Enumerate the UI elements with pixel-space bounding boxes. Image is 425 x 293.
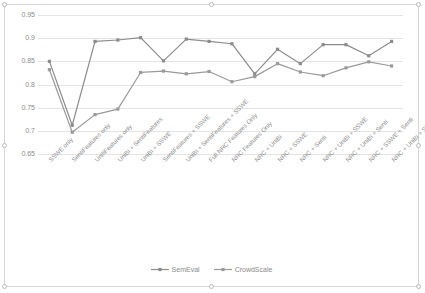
data-point[interactable] — [253, 72, 256, 75]
data-point[interactable] — [116, 38, 119, 41]
series-line-semeval — [49, 38, 391, 126]
data-point[interactable] — [390, 64, 393, 67]
data-point[interactable] — [322, 43, 325, 46]
data-point[interactable] — [276, 62, 279, 65]
data-point[interactable] — [71, 131, 74, 134]
legend-label: SemEval — [172, 266, 200, 273]
legend-item-semeval[interactable]: SemEval — [151, 266, 200, 273]
data-point[interactable] — [322, 74, 325, 77]
data-point[interactable] — [207, 40, 210, 43]
data-point[interactable] — [230, 80, 233, 83]
resize-handle-top-right[interactable] — [416, 2, 421, 7]
data-point[interactable] — [185, 72, 188, 75]
data-point[interactable] — [116, 107, 119, 110]
data-point[interactable] — [299, 62, 302, 65]
y-axis-tick-labels: 0.650.70.750.80.850.90.95 — [5, 5, 35, 165]
legend-marker-icon — [151, 266, 169, 273]
data-point[interactable] — [253, 75, 256, 78]
y-axis-tick-label: 0.65 — [21, 150, 35, 158]
legend-item-crowdscale[interactable]: CrowdScale — [214, 266, 273, 273]
data-point[interactable] — [93, 40, 96, 43]
resize-handle-top-center[interactable] — [209, 2, 214, 7]
legend-label: CrowdScale — [235, 266, 273, 273]
data-point[interactable] — [207, 70, 210, 73]
data-point[interactable] — [390, 40, 393, 43]
y-axis-tick-label: 0.85 — [21, 57, 35, 65]
chart-legend: SemEvalCrowdScale — [5, 266, 418, 273]
data-point[interactable] — [139, 36, 142, 39]
resize-handle-bottom-center[interactable] — [209, 284, 214, 289]
data-point[interactable] — [48, 60, 51, 63]
data-point[interactable] — [93, 113, 96, 116]
data-point[interactable] — [367, 60, 370, 63]
chart-container[interactable]: 0.650.70.750.80.850.90.95 SSWE onlySenti… — [4, 4, 419, 287]
y-axis-tick-label: 0.7 — [25, 127, 35, 135]
y-axis-tick-label: 0.95 — [21, 11, 35, 19]
y-axis-tick-label: 0.75 — [21, 104, 35, 112]
data-point[interactable] — [299, 70, 302, 73]
resize-handle-middle-right[interactable] — [416, 143, 421, 148]
data-point[interactable] — [162, 69, 165, 72]
y-axis-tick-label: 0.8 — [25, 81, 35, 89]
data-point[interactable] — [344, 43, 347, 46]
data-point[interactable] — [71, 124, 74, 127]
data-point[interactable] — [162, 59, 165, 62]
data-point[interactable] — [367, 54, 370, 57]
y-axis-tick-label: 0.9 — [25, 34, 35, 42]
data-point[interactable] — [48, 68, 51, 71]
data-point[interactable] — [230, 42, 233, 45]
data-point[interactable] — [185, 37, 188, 40]
data-point[interactable] — [276, 48, 279, 51]
data-point[interactable] — [344, 66, 347, 69]
x-axis-tick-labels: SSWE onlySentiFeatures onlyUnifiFeatures… — [38, 156, 408, 266]
legend-marker-icon — [214, 266, 232, 273]
resize-handle-bottom-left[interactable] — [2, 284, 7, 289]
data-point[interactable] — [139, 71, 142, 74]
resize-handle-bottom-right[interactable] — [416, 284, 421, 289]
